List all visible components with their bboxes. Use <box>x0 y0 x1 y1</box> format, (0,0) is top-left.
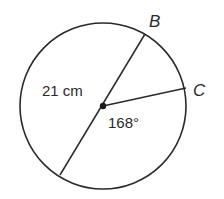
center-point <box>100 103 106 109</box>
label-diameter-length: 21 cm <box>42 82 83 99</box>
label-central-angle: 168° <box>108 114 139 131</box>
label-point-b: B <box>149 12 160 31</box>
label-point-c: C <box>193 81 206 100</box>
radius-line-c <box>103 88 186 106</box>
circle-diagram: B C 21 cm 168° <box>0 0 224 199</box>
